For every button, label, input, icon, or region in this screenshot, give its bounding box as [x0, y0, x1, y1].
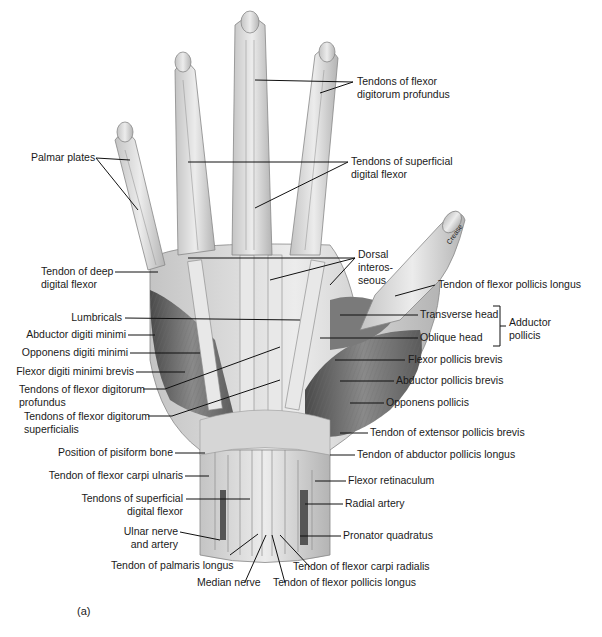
label-flexor-pollicis-brevis: Flexor pollicis brevis: [408, 353, 503, 366]
label-transverse-head: Transverse head: [420, 308, 498, 321]
label-oblique-head: Oblique head: [420, 331, 482, 344]
label-pronator-quadratus: Pronator quadratus: [343, 529, 433, 542]
label-tendon-palmaris-longus: Tendon of palmaris longus: [111, 559, 234, 572]
label-adductor-pollicis: Adductor pollicis: [509, 316, 551, 342]
label-tendon-flexor-pollicis-longus-wrist: Tendon of flexor pollicis longus: [273, 576, 416, 589]
label-tendon-abductor-pollicis-longus: Tendon of abductor pollicis longus: [357, 448, 515, 461]
label-flexor-retinaculum: Flexor retinaculum: [348, 474, 434, 487]
label-tendons-flexor-digitorum-superficialis: Tendons of flexor digitorum superficiali…: [24, 410, 150, 436]
label-palmar-plates: Palmar plates: [31, 151, 95, 164]
label-abductor-pollicis-brevis: Abductor pollicis brevis: [396, 374, 503, 387]
label-tendons-superficial-digital-flexor-wrist: Tendons of superficial digital flexor: [81, 492, 183, 518]
label-abductor-digiti-minimi: Abductor digiti minimi: [26, 328, 126, 341]
label-opponens-digiti-minimi: Opponens digiti minimi: [22, 346, 128, 359]
label-flexor-digiti-minimi-brevis: Flexor digiti minimi brevis: [16, 365, 134, 378]
label-tendon-flexor-carpi-radialis: Tendon of flexor carpi radialis: [293, 560, 430, 573]
wrist: [200, 440, 330, 563]
label-tendon-extensor-pollicis-brevis: Tendon of extensor pollicis brevis: [370, 426, 525, 439]
label-tendons-flexor-digitorum-profundus-palm: Tendons of flexor digitorum profundus: [19, 383, 145, 409]
label-radial-artery: Radial artery: [345, 497, 405, 510]
label-tendon-flexor-pollicis-longus-thumb: Tendon of flexor pollicis longus: [438, 278, 581, 291]
label-tendon-flexor-carpi-ulnaris: Tendon of flexor carpi ulnaris: [49, 469, 183, 482]
label-tendons-flexor-digitorum-profundus: Tendons of flexor digitorum profundus: [357, 75, 450, 101]
label-dorsal-interosseous: Dorsal interos- seous: [358, 248, 393, 287]
label-tendon-deep-digital-flexor: Tendon of deep digital flexor: [41, 265, 113, 291]
figure-caption: (a): [77, 605, 90, 617]
label-lumbricals: Lumbricals: [71, 311, 122, 324]
anatomy-figure: Crease: [0, 0, 602, 637]
label-opponens-pollicis: Opponens pollicis: [386, 396, 469, 409]
label-ulnar-nerve-artery: Ulnar nerve and artery: [124, 525, 178, 551]
label-tendons-superficial-digital-flexor: Tendons of superficial digital flexor: [351, 155, 453, 181]
label-position-pisiform-bone: Position of pisiform bone: [58, 446, 173, 459]
label-median-nerve: Median nerve: [197, 576, 261, 589]
